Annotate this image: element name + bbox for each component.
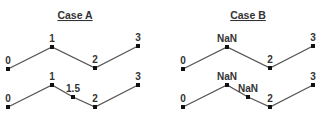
series-row: 011.523 bbox=[5, 71, 141, 109]
data-point-marker bbox=[181, 67, 185, 71]
panel-title: Case A bbox=[57, 9, 93, 21]
data-point-marker bbox=[246, 95, 250, 99]
point-label: 0 bbox=[180, 55, 186, 66]
data-point-marker bbox=[311, 83, 315, 87]
series-line bbox=[183, 46, 313, 69]
series-row: 0NaN23 bbox=[180, 32, 316, 71]
data-point-marker bbox=[93, 105, 97, 109]
point-label: 1.5 bbox=[66, 83, 80, 94]
point-label: 2 bbox=[267, 93, 273, 104]
point-label: NaN bbox=[217, 33, 237, 44]
panel-title: Case B bbox=[230, 9, 266, 21]
data-point-marker bbox=[225, 45, 229, 49]
data-point-marker bbox=[6, 67, 10, 71]
data-point-marker bbox=[136, 44, 140, 48]
point-label: 0 bbox=[5, 55, 11, 66]
point-label: 1 bbox=[49, 71, 55, 82]
data-point-marker bbox=[311, 44, 315, 48]
data-point-marker bbox=[268, 66, 272, 70]
point-label: 0 bbox=[180, 93, 186, 104]
point-label: 2 bbox=[267, 54, 273, 65]
point-label: 3 bbox=[310, 71, 316, 82]
series-line bbox=[8, 46, 138, 69]
series-row: 0123 bbox=[5, 32, 141, 71]
point-label: 3 bbox=[135, 71, 141, 82]
diagram-canvas: Case A0123011.523Case B0NaN230NaNNaN23 bbox=[0, 0, 324, 115]
data-point-marker bbox=[6, 105, 10, 109]
point-label: 3 bbox=[310, 32, 316, 43]
data-point-marker bbox=[136, 83, 140, 87]
data-point-marker bbox=[268, 105, 272, 109]
point-label: NaN bbox=[238, 83, 258, 94]
interpolation-diagram: Case A0123011.523Case B0NaN230NaNNaN23 bbox=[0, 0, 324, 115]
series-row: 0NaNNaN23 bbox=[180, 71, 316, 109]
data-point-marker bbox=[50, 45, 54, 49]
point-label: 2 bbox=[92, 54, 98, 65]
point-label: NaN bbox=[217, 71, 237, 82]
panel-case-a: Case A0123011.523 bbox=[5, 9, 141, 109]
point-label: 2 bbox=[92, 93, 98, 104]
point-label: 0 bbox=[5, 93, 11, 104]
data-point-marker bbox=[93, 66, 97, 70]
point-label: 3 bbox=[135, 32, 141, 43]
data-point-marker bbox=[181, 105, 185, 109]
data-point-marker bbox=[50, 83, 54, 87]
point-label: 1 bbox=[49, 33, 55, 44]
data-point-marker bbox=[225, 83, 229, 87]
data-point-marker bbox=[71, 95, 75, 99]
panel-case-b: Case B0NaN230NaNNaN23 bbox=[180, 9, 316, 109]
